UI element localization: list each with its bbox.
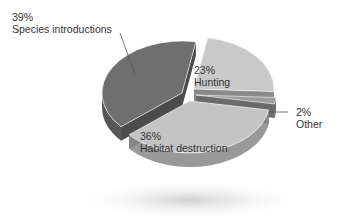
label-species-pct: 39% [12, 11, 112, 23]
label-species-introductions: 39% Species introductions [12, 11, 112, 35]
label-habitat-destruction: 36% Habitat destruction [140, 130, 228, 154]
label-habitat-pct: 36% [140, 130, 228, 142]
pie-shadow [70, 180, 310, 220]
label-hunting: 23% Hunting [194, 64, 230, 88]
label-other: 2% Other [296, 106, 322, 130]
label-species-name: Species introductions [12, 23, 112, 35]
label-other-pct: 2% [296, 106, 322, 118]
label-habitat-name: Habitat destruction [140, 142, 228, 154]
label-other-name: Other [296, 118, 322, 130]
label-hunting-pct: 23% [194, 64, 230, 76]
label-hunting-name: Hunting [194, 76, 230, 88]
